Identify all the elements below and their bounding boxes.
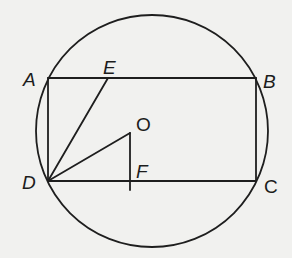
label-o: O bbox=[136, 114, 151, 135]
diagram: A E B O F D C bbox=[0, 0, 292, 258]
label-d: D bbox=[22, 172, 36, 193]
label-a: A bbox=[22, 69, 36, 90]
diagram-canvas: A E B O F D C bbox=[0, 0, 292, 258]
label-c: C bbox=[264, 176, 278, 197]
label-f: F bbox=[136, 161, 149, 182]
label-b: B bbox=[263, 71, 276, 92]
label-e: E bbox=[103, 57, 116, 78]
